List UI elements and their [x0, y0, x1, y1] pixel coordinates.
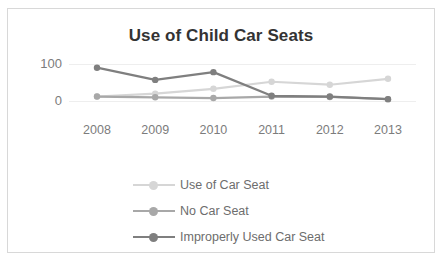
legend-label: Improperly Used Car Seat — [180, 230, 325, 244]
plot-area — [69, 64, 416, 119]
x-axis-tick-2010: 2010 — [199, 123, 227, 137]
data-point — [327, 82, 333, 88]
data-point — [210, 86, 216, 92]
x-axis-tick-2011: 2011 — [258, 123, 285, 137]
legend-swatch-icon — [133, 231, 175, 243]
x-axis-tick-2008: 2008 — [83, 123, 111, 137]
series-layer — [94, 65, 391, 103]
legend-item-2[interactable]: Improperly Used Car Seat — [133, 224, 383, 250]
data-point — [152, 77, 158, 83]
legend-label: No Car Seat — [180, 204, 249, 218]
data-point — [327, 93, 333, 99]
chart-legend: Use of Car SeatNo Car SeatImproperly Use… — [133, 172, 383, 250]
data-point — [385, 96, 391, 102]
data-point — [210, 95, 216, 101]
y-axis-tick-0: 0 — [55, 93, 62, 108]
line-chart-svg — [69, 64, 416, 119]
legend-swatch-icon — [133, 205, 175, 217]
y-axis-tick-100: 100 — [40, 56, 62, 71]
chart-frame: Use of Child Car Seats 100 0 20082009201… — [7, 8, 435, 253]
data-point — [268, 93, 274, 99]
series-line-0 — [97, 79, 388, 97]
x-axis-tick-2009: 2009 — [141, 123, 169, 137]
data-point — [94, 93, 100, 99]
data-point — [385, 76, 391, 82]
legend-swatch-icon — [133, 179, 175, 191]
chart-title: Use of Child Car Seats — [8, 26, 434, 46]
x-axis-tick-2013: 2013 — [374, 123, 402, 137]
y-axis: 100 0 — [26, 9, 62, 261]
data-point — [210, 69, 216, 75]
data-point — [152, 94, 158, 100]
x-axis: 200820092010201120122013 — [69, 123, 416, 143]
legend-label: Use of Car Seat — [180, 178, 269, 192]
x-axis-tick-2012: 2012 — [316, 123, 344, 137]
legend-item-1[interactable]: No Car Seat — [133, 198, 383, 224]
data-point — [268, 79, 274, 85]
data-point — [94, 65, 100, 71]
legend-item-0[interactable]: Use of Car Seat — [133, 172, 383, 198]
